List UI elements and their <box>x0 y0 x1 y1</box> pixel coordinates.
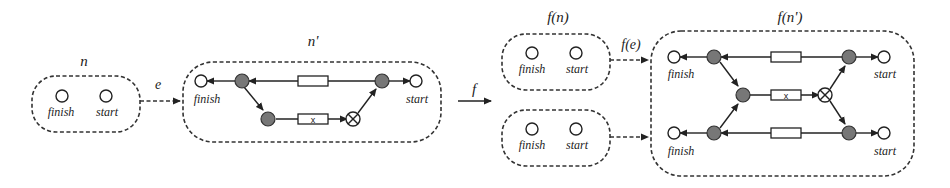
place-start-label: start <box>874 67 897 81</box>
node-fn-prime: f(n') x finish <box>651 9 914 176</box>
place-finish-label: finish <box>519 62 546 76</box>
place-start-label: start <box>566 62 589 76</box>
transition-box <box>771 52 801 62</box>
place-finish-icon <box>668 51 680 63</box>
gray-place-icon <box>707 126 721 140</box>
place-finish-icon <box>526 123 538 135</box>
node-fn-copy: finish start <box>502 110 610 166</box>
gray-place-icon <box>842 50 856 64</box>
place-start-icon <box>570 123 582 135</box>
place-start-label: start <box>874 144 897 158</box>
place-finish-label: finish <box>519 138 546 152</box>
gray-place-icon <box>736 88 750 102</box>
place-start-icon <box>570 47 582 59</box>
node-n-prime-boundary <box>183 62 441 142</box>
place-start-label: start <box>406 92 429 106</box>
place-start-label: start <box>96 105 119 119</box>
node-n-prime-label: n' <box>308 33 320 49</box>
place-finish-label: finish <box>668 67 695 81</box>
node-fn-label: f(n) <box>547 9 569 26</box>
place-finish-icon <box>195 75 207 87</box>
place-start-icon <box>878 127 890 139</box>
mapping-f-label: f <box>472 81 478 97</box>
node-n: n finish start <box>32 53 140 132</box>
transition-x-label: x <box>311 115 316 125</box>
place-finish-icon <box>526 47 538 59</box>
edge-fe-label: f(e) <box>621 37 641 53</box>
node-n-prime: n' x finish start <box>183 33 441 142</box>
mapping-diagram: n finish start e n' x <box>0 0 950 188</box>
transition-x-label: x <box>784 91 789 101</box>
edge-fe: f(e) <box>610 37 648 137</box>
place-finish-icon <box>668 127 680 139</box>
gray-place-icon <box>842 126 856 140</box>
mapping-f: f <box>458 81 491 101</box>
gray-place-icon <box>375 74 389 88</box>
gray-place-icon <box>235 74 249 88</box>
gray-place-icon <box>707 50 721 64</box>
place-start-icon <box>100 90 112 102</box>
xor-gateway-icon <box>818 88 832 102</box>
transition-box <box>298 76 328 86</box>
edge-e-label: e <box>155 77 161 92</box>
place-start-label: start <box>566 138 589 152</box>
node-n-label: n <box>80 53 88 69</box>
place-finish-label: finish <box>48 105 75 119</box>
place-finish-label: finish <box>668 144 695 158</box>
place-finish-label: finish <box>194 92 221 106</box>
place-finish-icon <box>56 90 68 102</box>
node-fn: f(n) finish start <box>502 9 610 90</box>
edge-e: e <box>140 77 180 101</box>
gray-place-icon <box>261 112 275 126</box>
xor-gateway-icon <box>346 112 360 126</box>
node-fn-prime-label: f(n') <box>778 9 803 26</box>
node-n-boundary <box>32 76 140 132</box>
place-start-icon <box>410 75 422 87</box>
place-start-icon <box>878 51 890 63</box>
transition-box <box>771 128 801 138</box>
